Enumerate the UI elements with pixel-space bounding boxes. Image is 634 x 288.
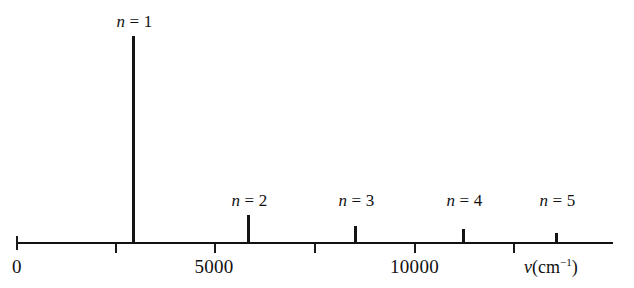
axis-title-close: ): [572, 257, 578, 277]
axis-tick-2500: [115, 244, 117, 253]
spectral-line-n1: [132, 36, 135, 242]
plot-area: n = 1 n = 2 n = 3 n = 4 n = 5 0 5000 100…: [0, 0, 634, 288]
spectral-line-n5: [555, 233, 558, 242]
label-equals: =: [553, 191, 563, 210]
axis-title-open: (cm: [532, 257, 560, 277]
spectral-line-n4: [462, 229, 465, 242]
spectral-label-n3: n = 3: [314, 191, 399, 211]
x-tick-label-0: 0: [6, 256, 28, 278]
label-n-value: 4: [474, 191, 483, 210]
label-n-symbol: n: [338, 191, 347, 210]
axis-tick-12500: [513, 244, 515, 253]
axis-tick-10000: [414, 244, 416, 253]
axis-tick-7500: [314, 244, 316, 253]
axis-title-exponent: −1: [560, 256, 572, 268]
label-n-symbol: n: [539, 191, 548, 210]
label-n-value: 3: [366, 191, 375, 210]
label-n-value: 5: [567, 191, 576, 210]
label-equals: =: [460, 191, 470, 210]
axis-tick-origin: [16, 236, 18, 250]
label-n-value: 2: [259, 191, 268, 210]
label-n-value: 1: [144, 12, 153, 31]
x-tick-label-5000: 5000: [176, 256, 252, 278]
spectral-label-n4: n = 4: [422, 191, 507, 211]
spectral-label-n2: n = 2: [207, 191, 292, 211]
spectral-label-n1: n = 1: [92, 12, 177, 32]
label-n-symbol: n: [446, 191, 455, 210]
label-equals: =: [245, 191, 255, 210]
x-axis-title: ν(cm−1): [524, 257, 578, 278]
axis-tick-5000: [214, 244, 216, 253]
label-n-symbol: n: [231, 191, 240, 210]
x-tick-label-10000: 10000: [367, 256, 462, 278]
spectral-line-n3: [354, 226, 357, 242]
spectral-label-n5: n = 5: [515, 191, 600, 211]
label-n-symbol: n: [116, 12, 125, 31]
label-equals: =: [130, 12, 140, 31]
label-equals: =: [352, 191, 362, 210]
spectral-line-n2: [247, 215, 250, 242]
nu-symbol: ν: [524, 257, 532, 277]
spectrum-figure: n = 1 n = 2 n = 3 n = 4 n = 5 0 5000 100…: [0, 0, 634, 288]
